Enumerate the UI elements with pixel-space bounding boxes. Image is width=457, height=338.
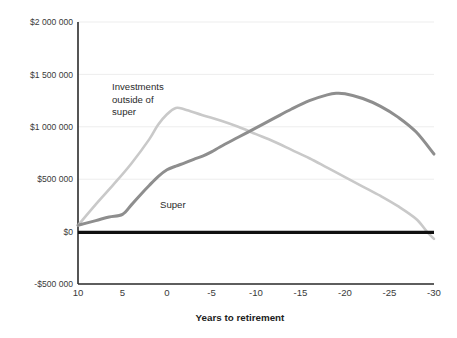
x-axis-tick-label: 0 [164, 287, 169, 298]
super-label: Super [160, 199, 186, 210]
x-axis-tick-label: -10 [249, 287, 263, 298]
x-axis-tick-label: -25 [383, 287, 397, 298]
annotation-line: outside of [112, 94, 154, 105]
x-axis-title: Years to retirement [196, 312, 285, 323]
y-axis-tick-label: $1 500 000 [30, 70, 73, 80]
y-axis-tick-label: $500 000 [37, 174, 73, 184]
x-axis-tick-label: -20 [338, 287, 352, 298]
x-axis-tick-label: -15 [294, 287, 308, 298]
y-axis-tick-label: $1 000 000 [30, 122, 73, 132]
y-axis-tick-label: -$500 000 [34, 279, 73, 289]
retirement-savings-line-chart: $2 000 000$1 500 000$1 000 000$500 000$0… [0, 0, 457, 338]
x-axis-tick-label: 10 [73, 287, 84, 298]
chart-svg: $2 000 000$1 500 000$1 000 000$500 000$0… [0, 0, 457, 338]
x-axis-tick-labels: 1050-5-10-15-20-25-30 [73, 287, 441, 298]
x-axis-tick-label: 5 [120, 287, 125, 298]
gridlines-group [78, 22, 434, 284]
annotation-line: super [112, 106, 137, 117]
y-axis-tick-labels: $2 000 000$1 500 000$1 000 000$500 000$0… [30, 17, 73, 289]
x-axis-tick-label: -5 [207, 287, 216, 298]
investments-outside-of-super-label: Investmentsoutside ofsuper [112, 81, 164, 117]
series-annotation-labels: Investmentsoutside ofsuperSuper [112, 81, 186, 210]
y-axis-tick-label: $2 000 000 [30, 17, 73, 27]
x-axis-tick-label: -30 [427, 287, 441, 298]
y-axis-tick-label: $0 [63, 227, 73, 237]
annotation-line: Super [160, 199, 186, 210]
annotation-line: Investments [112, 81, 164, 92]
